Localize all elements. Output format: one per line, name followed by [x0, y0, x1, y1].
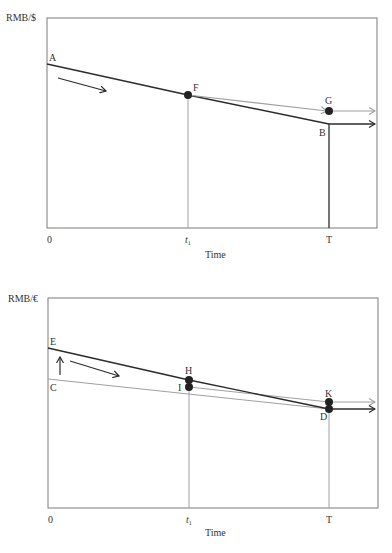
y-axis-label: RMB/€: [8, 293, 38, 304]
top-diagram: RMB/$ A F G B 0 t1 T Time: [6, 12, 377, 260]
x-tick-t1: t1: [186, 514, 192, 526]
label-F: F: [193, 82, 199, 93]
x-tick-0: 0: [47, 234, 52, 245]
point-G: [325, 107, 333, 115]
point-H: [185, 376, 193, 384]
x-tick-T: T: [326, 514, 332, 525]
label-E: E: [50, 336, 56, 347]
label-I: I: [178, 382, 181, 393]
label-D: D: [320, 411, 327, 422]
x-tick-0: 0: [48, 514, 53, 525]
x-tick-T: T: [326, 234, 332, 245]
point-I: [185, 383, 193, 391]
trend-arrow-icon: [58, 78, 106, 91]
x-tick-t1: t1: [185, 234, 191, 246]
label-K: K: [325, 388, 333, 399]
x-axis-label: Time: [205, 249, 226, 260]
trend-arrow-icon: [70, 361, 119, 376]
point-F: [184, 91, 192, 99]
y-axis-label: RMB/$: [6, 12, 36, 23]
label-B: B: [319, 127, 326, 138]
exchange-rate-diagrams: RMB/$ A F G B 0 t1 T Time RMB/€: [0, 0, 392, 553]
label-C: C: [50, 382, 57, 393]
x-axis-label: Time: [205, 527, 226, 538]
bottom-diagram: RMB/€ E C H I K D 0 t1 T Tim: [8, 293, 378, 538]
point-K: [325, 398, 333, 406]
label-A: A: [49, 52, 57, 63]
label-G: G: [325, 95, 332, 106]
label-H: H: [185, 365, 192, 376]
